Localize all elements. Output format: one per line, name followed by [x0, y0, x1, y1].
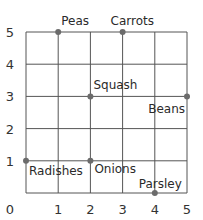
point-onions — [87, 158, 93, 164]
x-tick-label: 3 — [118, 202, 126, 217]
point-beans — [184, 93, 190, 99]
label-carrots: Carrots — [111, 14, 154, 28]
label-beans: Beans — [148, 102, 185, 116]
label-radishes: Radishes — [29, 164, 83, 178]
x-tick-label: 4 — [151, 202, 159, 217]
label-parsley: Parsley — [139, 177, 182, 191]
x-tick-label: 0 — [6, 202, 14, 217]
point-carrots — [120, 29, 126, 35]
garden-grid-chart: 012345 12345 PeasCarrotsSquashBeansRadis… — [0, 0, 203, 220]
label-squash: Squash — [93, 78, 137, 92]
y-tick-label: 2 — [6, 122, 14, 137]
x-tick-label: 5 — [183, 202, 191, 217]
y-tick-label: 4 — [6, 57, 14, 72]
point-peas — [55, 29, 61, 35]
label-onions: Onions — [94, 162, 136, 176]
x-axis-ticks: 012345 — [6, 202, 191, 217]
x-tick-label: 1 — [54, 202, 62, 217]
label-peas: Peas — [61, 14, 89, 28]
x-tick-label: 2 — [86, 202, 94, 217]
y-tick-label: 5 — [6, 25, 14, 40]
y-tick-label: 3 — [6, 89, 14, 104]
point-squash — [87, 93, 93, 99]
point-labels: PeasCarrotsSquashBeansRadishesOnionsPars… — [29, 14, 185, 191]
y-axis-ticks: 12345 — [6, 25, 14, 169]
y-tick-label: 1 — [6, 154, 14, 169]
